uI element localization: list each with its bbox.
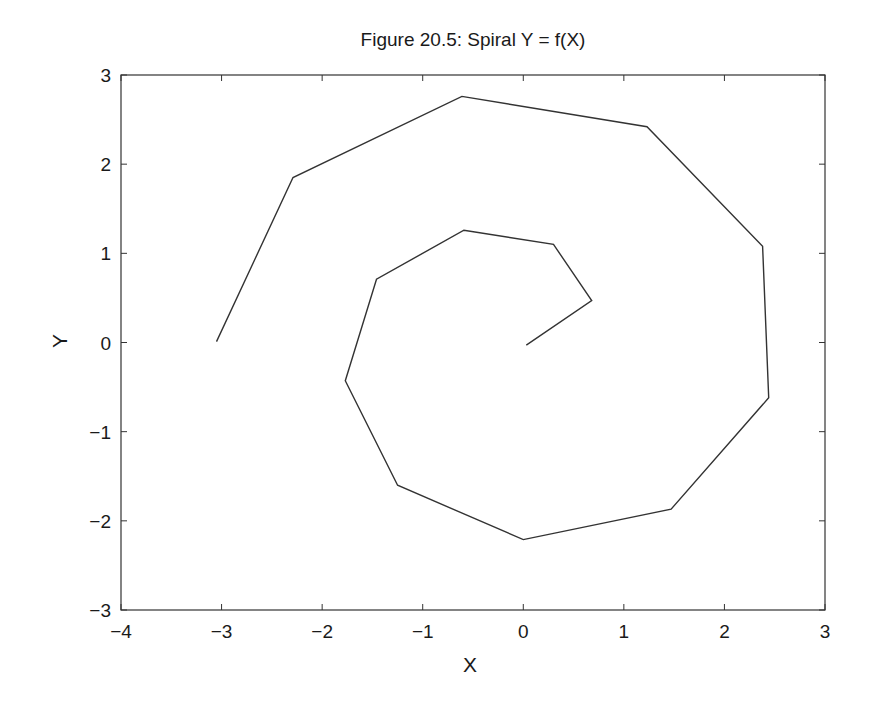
y-tick-label: −3	[89, 600, 111, 621]
y-tick-label: −1	[89, 422, 111, 443]
x-tick-label: 3	[820, 621, 831, 642]
y-axis-ticks: −3−2−10123	[89, 65, 825, 621]
x-tick-label: −2	[311, 621, 333, 642]
x-axis-label: X	[463, 653, 477, 676]
spiral-line-chart: Figure 20.5: Spiral Y = f(X) −4−3−2−1012…	[0, 0, 874, 706]
x-axis-ticks: −4−3−2−10123	[110, 75, 830, 642]
x-tick-label: −3	[211, 621, 233, 642]
y-tick-label: 1	[100, 243, 111, 264]
y-tick-label: 0	[100, 333, 111, 354]
y-tick-label: 3	[100, 65, 111, 86]
data-series	[217, 96, 769, 539]
y-tick-label: 2	[100, 154, 111, 175]
x-tick-label: −1	[412, 621, 434, 642]
y-axis-label: Y	[48, 334, 71, 348]
figure: Figure 20.5: Spiral Y = f(X) −4−3−2−1012…	[0, 0, 874, 706]
y-tick-label: −2	[89, 511, 111, 532]
axes-frame	[121, 75, 825, 610]
plot-area-border	[121, 75, 825, 610]
spiral-series-line	[217, 96, 769, 539]
x-tick-label: 0	[518, 621, 529, 642]
x-tick-label: −4	[110, 621, 132, 642]
chart-title: Figure 20.5: Spiral Y = f(X)	[361, 29, 586, 50]
x-tick-label: 1	[619, 621, 630, 642]
x-tick-label: 2	[719, 621, 730, 642]
